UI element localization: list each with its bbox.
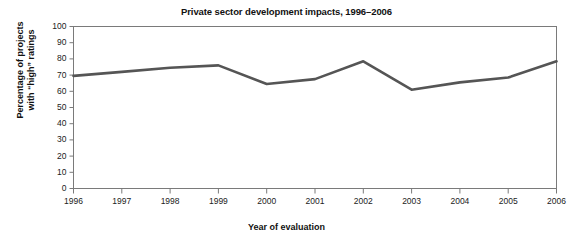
y-axis-ticks: [70, 27, 74, 189]
line-chart-svg: [0, 0, 573, 245]
x-tick-label: 1997: [102, 197, 142, 206]
y-tick-label: 90: [41, 38, 67, 47]
x-tick-label: 2006: [537, 197, 573, 206]
x-axis-title: Year of evaluation: [0, 222, 573, 232]
x-tick-label: 2000: [247, 197, 287, 206]
x-axis-ticks: [74, 189, 557, 194]
x-tick-label: 2004: [440, 197, 480, 206]
y-tick-label: 40: [41, 119, 67, 128]
y-tick-label: 50: [41, 103, 67, 112]
x-tick-label: 1999: [198, 197, 238, 206]
y-tick-label: 100: [41, 22, 67, 31]
y-tick-label: 0: [41, 184, 67, 193]
x-tick-label: 2003: [392, 197, 432, 206]
plot-area: 1009080706050403020100 19961997199819992…: [0, 0, 573, 245]
y-tick-label: 70: [41, 71, 67, 80]
y-tick-label: 30: [41, 135, 67, 144]
x-tick-label: 1998: [150, 197, 190, 206]
x-tick-label: 2005: [488, 197, 528, 206]
plot-frame: [74, 27, 557, 189]
x-tick-label: 2002: [343, 197, 383, 206]
y-tick-label: 80: [41, 54, 67, 63]
chart-figure: Private sector development impacts, 1996…: [0, 0, 573, 245]
y-tick-label: 10: [41, 168, 67, 177]
y-tick-label: 60: [41, 87, 67, 96]
y-tick-label: 20: [41, 152, 67, 161]
x-tick-label: 2001: [295, 197, 335, 206]
x-tick-label: 1996: [54, 197, 94, 206]
